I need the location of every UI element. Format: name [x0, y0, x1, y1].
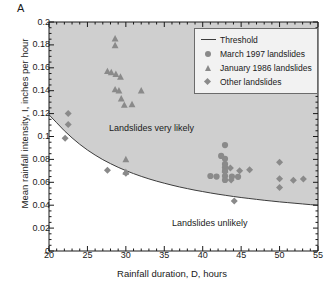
legend-diamond-icon [198, 75, 220, 89]
x-axis-title: Rainfall duration, D, hours [52, 268, 292, 279]
chart-legend: ThresholdMarch 1997 landslidesJanuary 19… [194, 28, 318, 94]
legend-circle-icon [198, 47, 220, 61]
legend-item-label: Other landslides [220, 77, 281, 87]
data-point-diamond [104, 167, 111, 174]
x-tick-label: 45 [221, 251, 261, 260]
x-tick-label: 40 [183, 251, 223, 260]
data-point-circle [213, 173, 219, 179]
x-tick-label: 30 [106, 251, 146, 260]
data-point-circle [235, 174, 241, 180]
x-tick-label: 35 [144, 251, 184, 260]
data-point-diamond [62, 135, 69, 142]
legend-triangle-icon [198, 61, 220, 75]
legend-item[interactable]: March 1997 landslides [198, 47, 313, 61]
annotation-very-likely: Landslides very likely [109, 123, 194, 133]
data-point-circle [222, 177, 228, 183]
x-tick-label: 25 [67, 251, 107, 260]
legend-line-icon [198, 33, 220, 47]
legend-item[interactable]: January 1986 landslides [198, 61, 313, 75]
x-tick-label: 50 [260, 251, 300, 260]
legend-item-label: January 1986 landslides [220, 63, 312, 73]
chart-figure: A 00.020.040.060.080.10.120.140.160.180.… [0, 0, 328, 282]
data-point-circle [222, 142, 228, 148]
x-tick-label: 20 [29, 251, 69, 260]
legend-item[interactable]: Threshold [198, 33, 313, 47]
x-tick-label: 55 [298, 251, 328, 260]
x-axis-tick-labels: 2025303540455055 [0, 251, 328, 265]
legend-item[interactable]: Other landslides [198, 75, 313, 89]
annotation-unlikely: Landslides unlikely [172, 218, 248, 228]
legend-item-label: March 1997 landslides [220, 49, 305, 59]
legend-item-label: Threshold [220, 35, 258, 45]
data-point-diamond [231, 197, 238, 204]
y-axis-title: Mean rainfall intensity, I, inches per h… [19, 4, 30, 244]
data-point-circle [207, 173, 213, 179]
